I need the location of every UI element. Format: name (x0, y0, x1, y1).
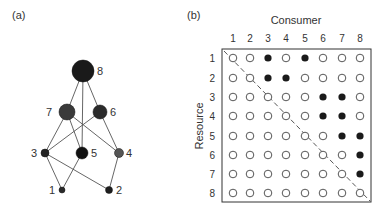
edge-1-5 (62, 153, 82, 190)
panel-a-label: (a) (12, 9, 25, 21)
row-label-4: 4 (209, 111, 215, 122)
cell-empty-6-1 (229, 151, 237, 159)
row-label-6: 6 (209, 150, 215, 161)
cell-empty-6-3 (264, 151, 272, 159)
cell-empty-2-5 (301, 74, 309, 82)
cell-empty-7-7 (338, 170, 346, 178)
edge-5-8 (82, 71, 83, 153)
cell-empty-5-6 (319, 132, 327, 140)
cell-empty-1-7 (338, 54, 346, 62)
col-label-8: 8 (357, 33, 363, 44)
cell-empty-2-7 (338, 74, 346, 82)
column-labels: 12345678 (230, 33, 363, 44)
cell-filled-6-8 (356, 151, 363, 158)
col-label-6: 6 (320, 33, 326, 44)
cell-filled-1-3 (264, 54, 271, 61)
cell-empty-4-4 (282, 112, 290, 120)
col-label-1: 1 (230, 33, 236, 44)
cell-filled-2-4 (282, 74, 289, 81)
cell-empty-4-2 (246, 112, 254, 120)
cell-empty-8-3 (264, 189, 272, 197)
node-label-2: 2 (116, 184, 122, 196)
node-8 (72, 60, 94, 82)
cell-empty-8-5 (301, 189, 309, 197)
cell-empty-5-2 (246, 132, 254, 140)
cell-empty-7-2 (246, 170, 254, 178)
cell-filled-3-6 (319, 93, 326, 100)
network-edges (45, 71, 119, 190)
node-label-5: 5 (91, 147, 97, 159)
cell-empty-5-4 (282, 132, 290, 140)
cell-filled-5-7 (338, 132, 345, 139)
cell-filled-1-5 (301, 54, 308, 61)
cell-empty-1-1 (229, 54, 237, 62)
cell-empty-7-5 (301, 170, 309, 178)
y-axis-title: Resource (193, 102, 205, 149)
cell-empty-8-6 (319, 189, 327, 197)
col-label-3: 3 (265, 33, 271, 44)
diagonal-line (224, 51, 370, 201)
cell-empty-8-1 (229, 189, 237, 197)
cell-empty-7-4 (282, 170, 290, 178)
row-labels: 12345678 (209, 53, 215, 199)
node-1 (59, 187, 65, 193)
cell-empty-6-6 (319, 151, 327, 159)
cell-filled-4-7 (338, 112, 345, 119)
cell-empty-4-3 (264, 112, 272, 120)
cell-empty-2-6 (319, 74, 327, 82)
col-label-2: 2 (247, 33, 253, 44)
row-label-7: 7 (209, 169, 215, 180)
node-label-8: 8 (97, 65, 103, 77)
figure: (a) 12345678 (b) Consumer Resource 12345… (0, 0, 390, 212)
cell-empty-5-3 (264, 132, 272, 140)
cell-empty-8-2 (246, 189, 254, 197)
cell-filled-7-8 (356, 170, 363, 177)
node-label-1: 1 (49, 184, 55, 196)
cell-empty-8-4 (282, 189, 290, 197)
row-label-1: 1 (209, 53, 215, 64)
cell-empty-4-8 (356, 112, 364, 120)
node-label-7: 7 (46, 106, 52, 118)
cell-empty-5-5 (301, 132, 309, 140)
row-label-5: 5 (209, 131, 215, 142)
cell-empty-4-1 (229, 112, 237, 120)
cell-filled-3-7 (338, 93, 345, 100)
cell-empty-1-6 (319, 54, 327, 62)
node-label-3: 3 (31, 147, 37, 159)
cell-empty-3-3 (264, 93, 272, 101)
row-label-2: 2 (209, 73, 215, 84)
cell-empty-8-8 (356, 189, 364, 197)
col-label-5: 5 (302, 33, 308, 44)
row-label-3: 3 (209, 92, 215, 103)
col-label-4: 4 (283, 33, 289, 44)
cell-filled-4-6 (319, 112, 326, 119)
cell-filled-2-3 (264, 74, 271, 81)
matrix-cells (229, 54, 364, 197)
cell-empty-7-3 (264, 170, 272, 178)
panel-b-label: (b) (187, 9, 200, 21)
cell-empty-3-8 (356, 93, 364, 101)
cell-empty-3-5 (301, 93, 309, 101)
x-axis-title: Consumer (271, 14, 322, 26)
node-label-4: 4 (126, 147, 132, 159)
cell-empty-4-5 (301, 112, 309, 120)
cell-empty-6-2 (246, 151, 254, 159)
node-3 (41, 149, 49, 157)
node-label-6: 6 (110, 106, 116, 118)
cell-empty-6-5 (301, 151, 309, 159)
node-2 (106, 187, 113, 194)
cell-empty-3-1 (229, 93, 237, 101)
cell-filled-5-8 (356, 132, 363, 139)
cell-empty-1-4 (282, 54, 290, 62)
cell-empty-8-7 (338, 189, 346, 197)
row-label-8: 8 (209, 188, 215, 199)
node-6 (93, 105, 107, 119)
cell-empty-1-8 (356, 54, 364, 62)
node-5 (76, 147, 88, 159)
node-4 (115, 149, 124, 158)
col-label-7: 7 (339, 33, 345, 44)
cell-empty-6-4 (282, 151, 290, 159)
cell-empty-1-2 (246, 54, 254, 62)
cell-empty-6-7 (338, 151, 346, 159)
cell-empty-2-1 (229, 74, 237, 82)
